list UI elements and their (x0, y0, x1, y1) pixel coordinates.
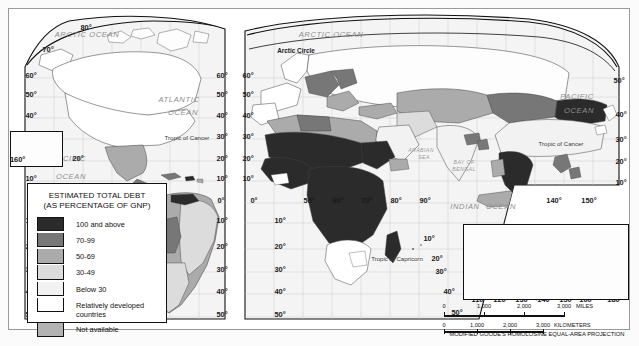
legend-swatch (37, 265, 64, 279)
legend-title: ESTIMATED TOTAL DEBT (AS PERCENTAGE OF G… (28, 184, 166, 217)
graticule-label: 60° (332, 196, 343, 205)
legend-title-line2: (AS PERCENTAGE OF GNP) (32, 201, 162, 211)
ocean-label: PACIFIC (560, 92, 594, 101)
graticule-label: 20° (431, 254, 442, 263)
graticule-label: 50° (274, 310, 285, 319)
sea-label: BAY OF (454, 159, 475, 165)
legend-item: Below 30 (37, 282, 166, 298)
miles-tick-labels: 0 1,000 2,000 3,000 MILES (436, 303, 636, 311)
graticule-label: 20° (72, 154, 83, 163)
ocean-label: ARCTIC OCEAN (298, 30, 364, 39)
graticule-label: 10° (216, 174, 227, 183)
graticule-label: 20° (615, 157, 626, 166)
km-unit: KILOMETERS (554, 322, 591, 328)
sea-label: SEA (418, 154, 430, 160)
miles-bar (436, 311, 636, 322)
legend-swatch (37, 217, 64, 231)
arctic-circle-label: Arctic Circle (277, 47, 315, 54)
miles-tick: 2,000 (517, 303, 531, 309)
graticule-label: 50° (303, 196, 314, 205)
projection-note: MODIFIED GOODE'S HOMOLOSINE EQUAL-AREA P… (436, 331, 638, 337)
legend-label: 100 and above (76, 217, 125, 229)
graticule-label: 10° (615, 178, 626, 187)
graticule-label: 140° (546, 196, 561, 205)
graticule-label: 50° (216, 90, 227, 99)
km-tick: 2,000 (503, 322, 517, 328)
graticule-label: 80° (80, 23, 91, 32)
km-tick: 3,000 (536, 322, 550, 328)
graticule-label: 30° (216, 132, 227, 141)
legend-title-line1: ESTIMATED TOTAL DEBT (32, 191, 162, 201)
legend-rows: 100 and above 70-99 50-69 30-49 Below 30… (28, 217, 166, 336)
legend-swatch (37, 298, 64, 312)
graticule-label: 20° (216, 154, 227, 163)
graticule-label: 50° (25, 90, 36, 99)
miles-unit: MILES (576, 303, 593, 309)
tropic-label: Tropic of Cancer (165, 134, 210, 141)
legend-label: 70-99 (76, 233, 95, 245)
graticule-label: 40° (216, 111, 227, 120)
ocean-label: OCEAN (486, 202, 516, 211)
km-tick: 0 (442, 322, 445, 328)
graticule-label: 70° (42, 45, 53, 54)
hawaii-lon-label: 160° (10, 155, 25, 164)
legend: ESTIMATED TOTAL DEBT (AS PERCENTAGE OF G… (27, 183, 167, 323)
graticule-label: 10° (423, 234, 434, 243)
legend-item: 50-69 (37, 249, 166, 265)
graticule-label: 30° (216, 265, 227, 274)
graticule-label: 50° (216, 310, 227, 319)
graticule-label: 10° (25, 174, 36, 183)
legend-label: Below 30 (76, 282, 106, 294)
graticule-label: 0° (217, 196, 224, 205)
graticule-label: 40° (25, 111, 36, 120)
legend-item: 100 and above (37, 217, 166, 233)
graticule-label: 30° (435, 267, 446, 276)
legend-item: Not available (37, 320, 166, 336)
graticule-label: 60° (25, 71, 36, 80)
legend-swatch (37, 233, 64, 247)
tropic-label: Tropic of Capricorn (371, 255, 423, 262)
graticule-label: 40° (216, 287, 227, 296)
legend-item: Relatively developed countries (37, 298, 166, 320)
map-screenshot: ARCTIC OCEAN ARCTIC OCEAN ATLANTIC OCEAN… (0, 0, 639, 346)
graticule-label: 30° (242, 132, 253, 141)
tropic-label: Tropic of Cancer (539, 140, 584, 147)
ocean-label: OCEAN (56, 172, 86, 181)
graticule-label: 50° (613, 76, 624, 85)
graticule-label: 40° (274, 287, 285, 296)
legend-label: 30-49 (76, 265, 95, 277)
graticule-label: 50° (242, 90, 253, 99)
graticule-label: 90° (419, 196, 430, 205)
graticule-label: 30° (615, 135, 626, 144)
graticule-label: 60° (242, 71, 253, 80)
ocean-label: OCEAN (564, 106, 594, 115)
ocean-label: INDIAN (450, 202, 479, 211)
country-china (495, 120, 605, 157)
sea-label: BENGAL (452, 166, 475, 172)
graticule-label: 20° (216, 242, 227, 251)
graticule-label: 10° (216, 216, 227, 225)
graticule-label: 0° (250, 196, 257, 205)
km-tick: 1,000 (470, 322, 484, 328)
km-tick-labels: 0 1,000 2,000 3,000 KILOMETERS (436, 322, 636, 330)
graticule-label: 80° (390, 196, 401, 205)
legend-swatch (37, 322, 64, 336)
ocean-label: OCEAN (168, 108, 198, 117)
graticule-label: 10° (274, 216, 285, 225)
graticule-label: 40° (242, 111, 253, 120)
graticule-label: 70° (361, 196, 372, 205)
legend-swatch (37, 282, 64, 296)
legend-item: 30-49 (37, 265, 166, 281)
legend-label: Not available (76, 320, 119, 334)
sea-label: ARABIAN (407, 147, 434, 153)
miles-tick: 3,000 (557, 303, 571, 309)
legend-label: 50-69 (76, 249, 95, 261)
graticule-label: 20° (242, 154, 253, 163)
graticule-label: 30° (274, 265, 285, 274)
miles-tick: 1,000 (477, 303, 491, 309)
miles-tick: 0 (442, 303, 445, 309)
graticule-label: 40° (443, 287, 454, 296)
ocean-label: ATLANTIC (158, 95, 200, 104)
legend-item: 70-99 (37, 233, 166, 249)
legend-swatch (37, 249, 64, 263)
